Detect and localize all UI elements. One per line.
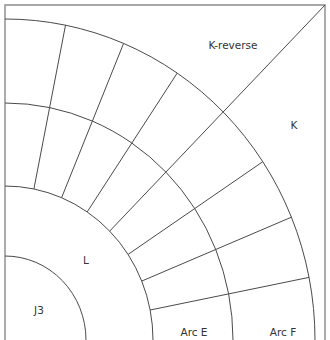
label-arc-f: Arc F [270,327,296,338]
label-l: L [83,255,89,266]
arc-j3 [5,256,86,340]
label-j3: J3 [34,305,44,316]
arc-f [5,19,315,340]
diagram-svg [0,0,330,340]
spoke-1 [34,25,66,189]
label-k: K [291,120,298,131]
spoke-2 [62,43,124,197]
spoke-3 [87,73,177,212]
label-arc-e: Arc E [180,327,207,338]
label-k-reverse: K-reverse [208,40,257,51]
spoke-7 [150,277,309,310]
spoke-5 [128,162,263,255]
spoke-6 [142,217,292,281]
quilt-pattern-diagram: K-reverse K L J3 Arc E Arc F [0,0,330,340]
